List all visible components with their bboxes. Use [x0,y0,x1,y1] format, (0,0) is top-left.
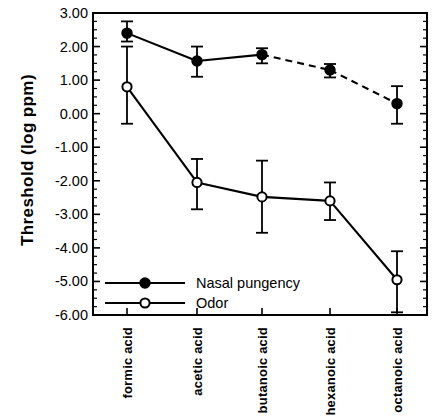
data-point-odor[interactable] [192,178,201,187]
data-point-odor[interactable] [122,82,131,91]
data-point-nasal-pungency[interactable] [325,65,335,75]
series-line-odor [262,197,330,201]
data-point-odor[interactable] [325,196,334,205]
series-line-odor [127,87,197,183]
series-line-nasal-pungency [127,33,197,61]
data-point-nasal-pungency[interactable] [192,56,202,66]
series-line-odor [330,201,397,280]
data-point-nasal-pungency[interactable] [122,28,132,38]
data-point-nasal-pungency[interactable] [257,50,267,60]
data-point-nasal-pungency[interactable] [392,99,402,109]
figure: Threshold (log ppm) 3.00 2.00 1.00 0.00 … [0,0,446,419]
chart-canvas [0,0,446,419]
series-line-nasal-pungency [262,55,330,70]
series-line-nasal-pungency [330,70,397,104]
data-point-odor[interactable] [257,192,266,201]
legend-marker-odor [140,298,149,307]
series-line-odor [197,182,262,196]
series-line-nasal-pungency [197,55,262,61]
data-point-odor[interactable] [392,275,401,284]
legend-marker-nasal-pungency [140,278,150,288]
